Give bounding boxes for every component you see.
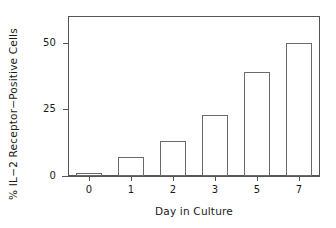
bar-day-7 xyxy=(286,43,311,176)
bar-day-1 xyxy=(118,157,143,176)
x-tick-mark-1 xyxy=(131,176,132,181)
x-tick-label-7: 7 xyxy=(284,184,314,195)
y-axis-label-container: % IL−2 Receptor−Positive Cells xyxy=(0,0,26,228)
plot-frame xyxy=(68,16,320,176)
bar-day-3 xyxy=(202,115,227,176)
y-axis-label: % IL−2 Receptor−Positive Cells xyxy=(7,28,19,200)
x-tick-label-1: 1 xyxy=(116,184,146,195)
x-tick-label-0: 0 xyxy=(74,184,104,195)
x-axis-line xyxy=(62,176,320,177)
x-tick-label-3: 3 xyxy=(200,184,230,195)
y-tick-label-0: 0 xyxy=(30,170,56,181)
y-axis-line xyxy=(68,16,69,176)
x-tick-mark-5 xyxy=(257,176,258,181)
y-tick-label-50: 50 xyxy=(30,37,56,48)
x-tick-label-2: 2 xyxy=(158,184,188,195)
bar-day-2 xyxy=(160,141,185,176)
x-axis-label: Day in Culture xyxy=(68,205,320,217)
x-tick-mark-2 xyxy=(173,176,174,181)
chart-figure: % IL−2 Receptor−Positive Cells 0 25 50 0… xyxy=(0,0,336,228)
x-tick-mark-0 xyxy=(89,176,90,181)
x-tick-label-5: 5 xyxy=(242,184,272,195)
y-tick-label-25: 25 xyxy=(30,103,56,114)
x-tick-mark-3 xyxy=(215,176,216,181)
bar-day-5 xyxy=(244,72,269,176)
x-tick-mark-7 xyxy=(299,176,300,181)
